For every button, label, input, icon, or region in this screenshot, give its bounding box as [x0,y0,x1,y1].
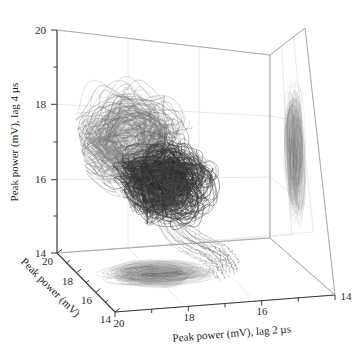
x-tick-label-14: 14 [341,290,353,302]
y-tick-label-16: 16 [35,173,47,185]
figure-3d-attractor-plot: 20 18 16 14 20 18 16 14 [0,0,363,359]
x-tick-label-20: 20 [114,317,126,329]
x-axis-title: Peak power (mV), lag 2 µs [172,322,291,344]
x-tick-label-16: 16 [257,305,269,317]
plot-canvas: 20 18 16 14 20 18 16 14 [0,0,363,359]
y-axis-title: Peak power (mV), lag 4 µs [8,83,21,202]
z-tick-label-18: 18 [62,275,74,287]
y-axis-tick-labels: 20 18 16 14 [35,24,47,259]
y-tick-label-18: 18 [35,98,47,110]
x-tick-label-18: 18 [184,311,196,323]
z-tick-label-20: 20 [42,255,54,267]
y-tick-label-20: 20 [35,24,47,36]
z-tick-label-16: 16 [81,294,93,306]
z-tick-label-14: 14 [100,313,112,325]
y-axis-ticks [51,30,57,253]
